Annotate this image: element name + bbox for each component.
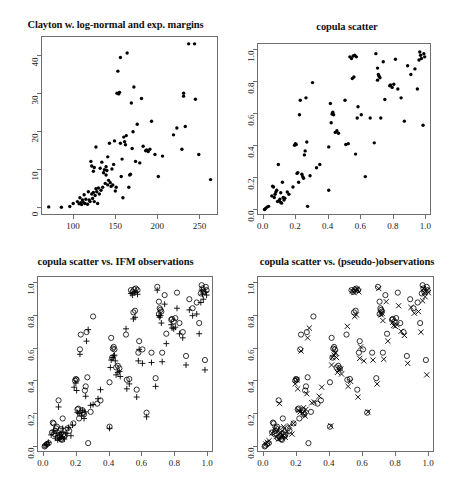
panel-title: copula scatter (231, 21, 463, 32)
data-point (281, 181, 284, 184)
data-point (423, 357, 428, 362)
panel-clayton-margins: Clayton w. log-normal and exp. margins 1… (0, 0, 231, 248)
data-point (298, 347, 303, 352)
x-tick-label: 0.8 (390, 458, 401, 468)
data-point (186, 307, 192, 313)
x-tick-label: 1.0 (423, 458, 434, 468)
y-tick-label: 10 (30, 168, 40, 184)
data-point (134, 394, 140, 400)
data-point (311, 81, 314, 84)
data-point (184, 125, 187, 128)
data-point (60, 206, 63, 209)
data-point (106, 155, 109, 158)
data-point (114, 189, 117, 192)
data-point (92, 191, 95, 194)
data-point (183, 353, 188, 358)
data-point (420, 57, 423, 60)
data-point (374, 376, 379, 381)
data-point (83, 393, 89, 399)
data-point (202, 367, 208, 373)
data-point (376, 286, 381, 291)
data-point (130, 101, 133, 104)
data-point (329, 102, 332, 105)
data-point (105, 169, 108, 172)
data-point (175, 126, 178, 129)
data-point (354, 152, 357, 155)
data-point (174, 290, 179, 295)
data-point (370, 350, 375, 355)
data-point (120, 175, 123, 178)
data-point (157, 175, 160, 178)
data-point (297, 416, 302, 421)
data-point (382, 60, 385, 63)
x-tick (263, 215, 264, 219)
data-point (91, 314, 96, 319)
data-point (272, 185, 275, 188)
data-point (302, 177, 305, 180)
x-tick (73, 215, 74, 219)
data-point (190, 313, 196, 319)
data-point (374, 52, 377, 55)
data-point (150, 119, 153, 122)
data-point (311, 314, 316, 319)
x-tick-label: 0.4 (322, 221, 333, 231)
x-tick (207, 452, 208, 456)
data-point (306, 205, 309, 208)
data-point (406, 64, 409, 67)
data-point (296, 171, 299, 174)
data-point (305, 375, 310, 380)
data-point (423, 55, 426, 58)
x-tick (199, 215, 200, 219)
x-tick (328, 215, 329, 219)
data-point (418, 330, 423, 335)
data-point (299, 99, 302, 102)
data-point (162, 292, 167, 297)
data-point (86, 203, 89, 206)
data-point (337, 132, 340, 135)
x-tick (362, 452, 363, 456)
data-point (101, 185, 104, 188)
data-point (89, 160, 92, 163)
data-point (346, 384, 351, 389)
data-point (385, 339, 390, 344)
x-tick-label: 0.2 (70, 458, 81, 468)
data-point (279, 191, 282, 194)
data-point (98, 192, 101, 195)
data-point (130, 316, 136, 322)
data-point (376, 66, 379, 69)
data-point (379, 312, 384, 317)
y-tick-label: 1.0 (246, 48, 256, 64)
data-point (93, 200, 96, 203)
data-point (121, 196, 124, 199)
data-point (379, 116, 382, 119)
x-tick-label: 0.2 (290, 221, 301, 231)
data-point (95, 396, 101, 402)
series-0 (47, 42, 212, 209)
data-point (77, 347, 82, 352)
data-point (108, 141, 111, 144)
data-point (204, 292, 210, 298)
data-point (412, 311, 417, 316)
x-tick (395, 452, 396, 456)
y-tick-label: 0 (30, 206, 40, 222)
data-point (415, 300, 420, 305)
data-point (308, 174, 311, 177)
data-point (68, 205, 71, 208)
y-tick-label: 0.8 (26, 314, 36, 330)
panel-title: copula scatter vs. (pseudo-)observations (231, 256, 463, 267)
data-point (91, 197, 94, 200)
data-point (97, 186, 100, 189)
x-tick-label: 0.0 (257, 458, 268, 468)
data-point (297, 181, 300, 184)
x-tick-label: 0.6 (355, 221, 366, 231)
data-point (110, 167, 113, 170)
data-point (402, 333, 407, 338)
data-point (421, 123, 424, 126)
plot-area (257, 43, 431, 215)
data-points-layer (258, 277, 435, 453)
y-tick-label: 1.0 (26, 281, 36, 297)
data-point (182, 94, 185, 97)
data-point (153, 383, 159, 389)
x-tick (115, 215, 116, 219)
data-point (303, 153, 306, 156)
